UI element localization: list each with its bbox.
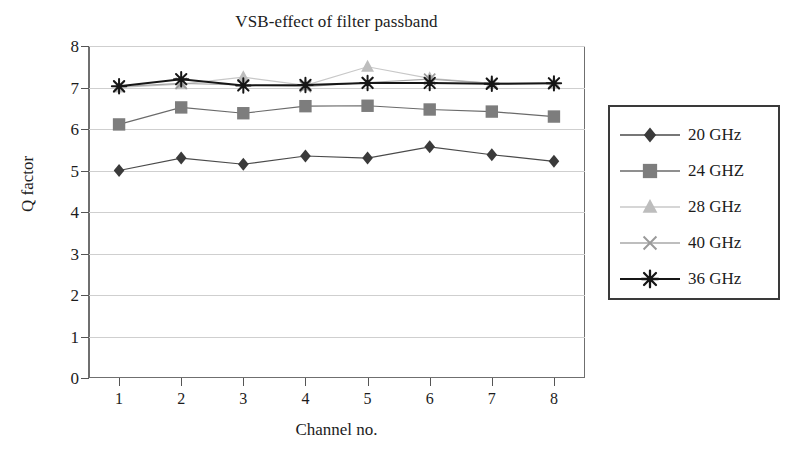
data-point-square-marker	[486, 105, 498, 117]
chart-figure: VSB-effect of filter passband 012345678 …	[0, 0, 797, 468]
series-layer	[88, 46, 585, 378]
y-axis-tick-label: 1	[71, 328, 80, 345]
data-point-triangle-marker	[361, 60, 374, 72]
data-point-square-marker	[423, 103, 435, 115]
x-axis-tick-label: 1	[115, 391, 123, 407]
legend-symbol-square-icon	[618, 159, 682, 183]
x-axis-tick-label: 3	[239, 391, 247, 407]
x-axis-tick-label: 7	[488, 391, 496, 407]
y-axis-title: Q factor	[18, 156, 38, 212]
data-point-square-marker	[361, 100, 373, 112]
x-axis-tick-label: 4	[301, 391, 309, 407]
data-point-diamond-marker	[176, 152, 187, 165]
y-axis-tick-label: 5	[71, 162, 80, 179]
data-point-asterisk-marker	[360, 76, 374, 90]
series-28-ghz	[113, 60, 561, 93]
x-axis-tick	[305, 378, 306, 386]
data-point-asterisk-marker	[547, 76, 561, 90]
data-point-asterisk-marker	[298, 78, 312, 92]
data-point-diamond-marker	[238, 158, 249, 171]
data-point-diamond-marker	[486, 148, 497, 161]
x-axis-tick-label: 8	[550, 391, 558, 407]
data-point-diamond-marker	[114, 164, 125, 177]
legend-label: 36 GHz	[688, 269, 741, 289]
data-point-asterisk-marker	[422, 76, 436, 90]
y-axis-tick-label: 6	[71, 121, 80, 138]
data-point-square-marker	[175, 101, 187, 113]
data-point-diamond-marker	[300, 149, 311, 162]
legend-item-40-ghz[interactable]: 40 GHz	[610, 225, 778, 261]
x-axis-tick-label: 5	[364, 391, 372, 407]
chart-legend: 20 GHz24 GHZ28 GHz40 GHz36 GHz	[608, 105, 780, 300]
y-axis-tick-label: 0	[71, 370, 80, 387]
y-axis-tick-label: 4	[71, 204, 80, 221]
data-point-asterisk-marker	[174, 72, 188, 86]
data-point-triangle-marker	[643, 199, 658, 213]
data-point-square-marker	[113, 118, 125, 130]
plot-area: 012345678 12345678	[88, 46, 585, 378]
x-axis-tick	[430, 378, 431, 386]
legend-item-36-ghz[interactable]: 36 GHz	[610, 261, 778, 297]
x-axis-tick	[181, 378, 182, 386]
x-axis-title: Channel no.	[88, 420, 585, 440]
x-axis-tick-label: 6	[426, 391, 434, 407]
legend-item-20-ghz[interactable]: 20 GHz	[610, 117, 778, 153]
data-point-square-marker	[643, 164, 657, 178]
x-axis-tick	[492, 378, 493, 386]
x-axis-tick	[554, 378, 555, 386]
data-point-asterisk-marker	[112, 79, 126, 93]
legend-symbol-diamond-icon	[618, 123, 682, 147]
data-point-square-marker	[548, 110, 560, 122]
legend-item-24-ghz[interactable]: 24 GHZ	[610, 153, 778, 189]
y-axis-tick-label: 8	[71, 38, 80, 55]
data-point-asterisk-marker	[485, 77, 499, 91]
data-point-asterisk-marker	[642, 271, 659, 288]
x-axis-tick	[119, 378, 120, 386]
y-axis-tick-label: 7	[71, 79, 80, 96]
data-point-diamond-marker	[424, 140, 435, 153]
data-point-diamond-marker	[549, 155, 560, 168]
legend-label: 40 GHz	[688, 233, 741, 253]
series-24-ghz	[113, 100, 560, 131]
legend-symbol-x-icon	[618, 231, 682, 255]
data-point-diamond-marker	[644, 128, 656, 143]
data-point-diamond-marker	[362, 152, 373, 165]
legend-symbol-asterisk-icon	[618, 267, 682, 291]
data-point-square-marker	[237, 107, 249, 119]
y-axis-tick-label: 2	[71, 287, 80, 304]
chart-title: VSB-effect of filter passband	[88, 12, 585, 32]
legend-label: 20 GHz	[688, 125, 741, 145]
legend-symbol-triangle-icon	[618, 195, 682, 219]
data-point-square-marker	[299, 100, 311, 112]
x-axis-tick-label: 2	[177, 391, 185, 407]
legend-label: 28 GHz	[688, 197, 741, 217]
legend-label: 24 GHZ	[688, 161, 744, 181]
data-point-asterisk-marker	[236, 78, 250, 92]
x-axis-tick	[243, 378, 244, 386]
series-20-ghz	[114, 140, 560, 177]
legend-item-28-ghz[interactable]: 28 GHz	[610, 189, 778, 225]
y-axis-tick-label: 3	[71, 245, 80, 262]
y-axis-tick	[81, 378, 89, 379]
x-axis-tick	[368, 378, 369, 386]
